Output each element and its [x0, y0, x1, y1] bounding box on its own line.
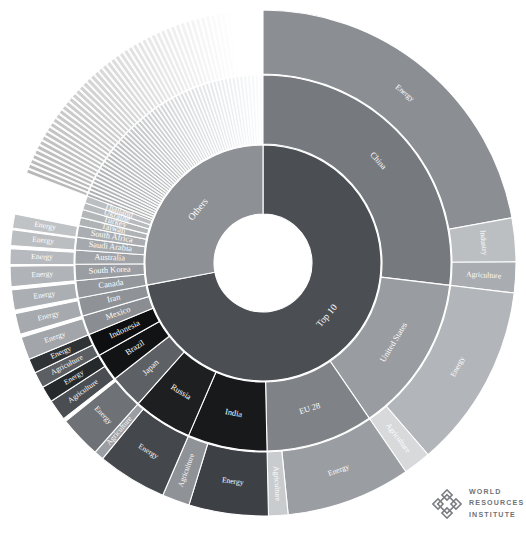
- center-label: All Emissions: [229, 256, 296, 268]
- wri-word-3: Institute: [469, 510, 524, 521]
- wri-word-1: World: [469, 487, 524, 498]
- wri-wordmark: World Resources Institute: [469, 487, 524, 521]
- wri-logo: World Resources Institute: [432, 484, 520, 524]
- wri-lattice-icon: [432, 489, 462, 519]
- sector-segment-minor[interactable]: [258, 10, 262, 74]
- sunburst-chart: Top 10OthersChinaEnergyIndustryAgricultu…: [0, 0, 526, 534]
- country-label-australia: Australia: [94, 253, 125, 263]
- sunburst-svg: Top 10OthersChinaEnergyIndustryAgricultu…: [0, 0, 526, 534]
- sector-label-south-korea-energy: Energy: [31, 269, 53, 279]
- wri-word-2: Resources: [469, 498, 524, 509]
- sector-label-australia-energy: Energy: [31, 252, 53, 262]
